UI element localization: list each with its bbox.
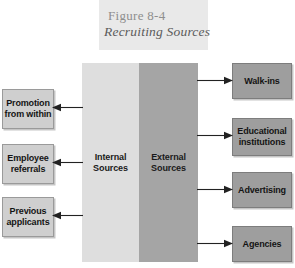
external-source-label-educational-line1: Educational — [237, 126, 286, 137]
internal-sources-label: Internal Sources — [93, 152, 128, 174]
external-source-label-walk-ins-line1: Walk-ins — [244, 76, 279, 87]
internal-source-label-promotion-line1: Promotion — [5, 98, 52, 109]
external-source-label-advertising: Advertising — [238, 185, 286, 196]
arrow-right-walk-ins-icon — [197, 76, 233, 85]
internal-sources-label-line2: Sources — [93, 163, 128, 174]
external-source-label-educational-institutions: Educational institutions — [237, 126, 286, 148]
internal-sources-label-line1: Internal — [93, 152, 128, 163]
external-source-label-educational-line2: institutions — [237, 137, 286, 148]
arrow-left-previous-applicants-icon — [52, 211, 83, 220]
external-sources-label: External Sources — [151, 152, 186, 174]
external-source-label-walk-ins: Walk-ins — [244, 76, 279, 87]
internal-source-label-promotion-line2: from within — [5, 109, 52, 120]
external-sources-label-line2: Sources — [151, 163, 186, 174]
arrow-right-agencies-icon — [197, 239, 233, 248]
external-source-label-advertising-line1: Advertising — [238, 185, 286, 196]
figure-number: Figure 8-4 — [108, 8, 208, 24]
external-source-box-agencies: Agencies — [232, 226, 292, 262]
internal-source-label-employee-line1: Employee — [7, 153, 48, 164]
external-source-label-agencies: Agencies — [243, 239, 282, 250]
internal-source-label-promotion: Promotion from within — [5, 98, 52, 120]
external-source-box-advertising: Advertising — [232, 172, 292, 208]
external-sources-label-line1: External — [151, 152, 186, 163]
internal-source-label-previous-line1: Previous — [6, 206, 49, 217]
internal-source-box-previous-applicants: Previous applicants — [2, 197, 54, 237]
external-source-box-educational-institutions: Educational institutions — [232, 118, 292, 156]
arrow-left-promotion-icon — [52, 103, 83, 112]
internal-source-box-promotion: Promotion from within — [2, 89, 54, 129]
internal-source-label-employee-referrals: Employee referrals — [7, 153, 48, 175]
figure-canvas: Figure 8-4 Recruiting Sources Internal S… — [0, 0, 295, 268]
arrow-right-educational-institutions-icon — [197, 131, 233, 140]
internal-source-label-previous-applicants: Previous applicants — [6, 206, 49, 228]
external-sources-column: External Sources — [139, 63, 198, 262]
external-source-box-walk-ins: Walk-ins — [232, 63, 292, 99]
figure-title: Recruiting Sources — [104, 24, 214, 40]
internal-source-box-employee-referrals: Employee referrals — [2, 144, 54, 184]
external-source-label-agencies-line1: Agencies — [243, 239, 282, 250]
arrow-right-advertising-icon — [197, 185, 233, 194]
internal-source-label-previous-line2: applicants — [6, 217, 49, 228]
arrow-left-employee-referrals-icon — [52, 158, 83, 167]
internal-sources-column: Internal Sources — [82, 63, 139, 262]
internal-source-label-employee-line2: referrals — [7, 164, 48, 175]
